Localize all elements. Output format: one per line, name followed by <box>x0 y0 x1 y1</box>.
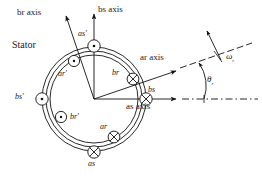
winding-label-ar-prime: ar' <box>58 70 67 78</box>
stator-label: Stator <box>12 40 36 50</box>
theta-r-angle-arc <box>199 63 206 99</box>
theta-r-subscript: r <box>211 81 213 86</box>
winding-marker-as <box>88 146 100 158</box>
omega-r-label: ωr <box>226 52 234 63</box>
omega-r-arrow <box>207 31 221 60</box>
winding-marker-br-prime <box>55 111 66 122</box>
omega-r-subscript: r <box>232 58 234 63</box>
winding-marker-ar <box>108 131 120 143</box>
machine-cross-section-svg <box>0 0 262 178</box>
winding-label-ar: ar <box>100 123 107 131</box>
winding-marker-as-prime <box>88 40 100 52</box>
winding-marker-br <box>127 73 139 85</box>
br-axis-label: br axis <box>17 8 41 17</box>
diagram-canvas: Stator br axis bs axis ar axis as axis a… <box>0 0 262 178</box>
winding-label-br-prime: br' <box>70 113 79 121</box>
bs-axis-label: bs axis <box>98 5 123 14</box>
winding-label-as: as <box>88 160 95 168</box>
winding-label-bs-prime: bs' <box>15 93 24 101</box>
ar-axis-label: ar axis <box>140 53 164 62</box>
theta-r-label: θr <box>207 75 213 86</box>
winding-label-bs: bs <box>148 86 155 94</box>
omega-r-tick <box>214 51 222 62</box>
winding-marker-bs-prime <box>36 93 48 105</box>
ar-axis-dashed-extension <box>180 43 252 68</box>
winding-label-as-prime: as' <box>78 30 87 38</box>
winding-marker-ar-prime <box>68 55 79 66</box>
as-axis-label: as axis <box>126 102 150 111</box>
winding-label-br: br <box>112 69 119 77</box>
